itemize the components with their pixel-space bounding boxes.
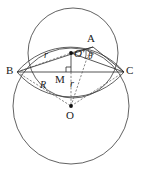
dashed-o-c <box>71 72 124 106</box>
dot-o-prime <box>69 51 73 55</box>
label-point-o-prime: O′ <box>74 48 84 59</box>
segment-ac <box>93 47 124 72</box>
label-point-m: M <box>55 74 65 85</box>
label-radius-r-upper: r <box>44 50 48 60</box>
label-point-a: A <box>87 33 95 44</box>
right-angle-marker <box>66 67 71 72</box>
theta-arc <box>85 51 86 59</box>
dot-o <box>69 104 73 108</box>
lens-upper-arc <box>17 47 124 72</box>
label-point-o: O <box>66 110 74 121</box>
label-angle-theta: θ <box>88 52 93 62</box>
label-point-c: C <box>126 65 133 76</box>
label-radius-r-lower: r <box>70 79 74 89</box>
geometry-figure: A B C O O′ M r r R θ <box>0 0 141 175</box>
label-radius-capital-r: R <box>40 80 46 90</box>
label-point-b: B <box>6 65 13 76</box>
